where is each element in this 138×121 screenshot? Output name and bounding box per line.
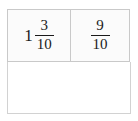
whole-part-first: 1 bbox=[24, 27, 35, 44]
numerator-first: 3 bbox=[39, 18, 51, 35]
denominator-first: 10 bbox=[35, 36, 54, 53]
cell-second-operand[interactable]: 9 10 bbox=[70, 9, 130, 62]
fraction-first: 3 10 bbox=[35, 18, 54, 53]
fraction-second: 9 10 bbox=[91, 18, 110, 53]
mixed-number-second: 9 10 bbox=[91, 18, 110, 53]
numerator-second: 9 bbox=[94, 18, 106, 35]
mixed-number-first: 1 3 10 bbox=[24, 18, 54, 53]
denominator-second: 10 bbox=[91, 36, 110, 53]
fraction-worksheet: 1 3 10 9 10 bbox=[7, 9, 131, 114]
operand-row: 1 3 10 9 10 bbox=[7, 9, 131, 62]
cell-first-operand[interactable]: 1 3 10 bbox=[7, 9, 71, 62]
answer-area[interactable] bbox=[7, 62, 131, 114]
